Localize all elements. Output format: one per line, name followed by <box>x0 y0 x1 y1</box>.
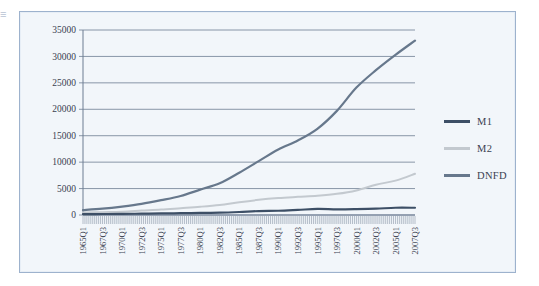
x-tick-label: 2007Q3 <box>410 227 420 254</box>
x-tick-label: 1972Q3 <box>137 227 147 254</box>
legend-item-dnfd[interactable]: DNFD <box>444 162 514 189</box>
x-tick-label: 1992Q3 <box>293 227 303 254</box>
chart-screenshot: ≡ 05000100001500020000250003000035000196… <box>0 0 539 286</box>
y-tick-label: 25000 <box>52 78 76 88</box>
y-tick-label: 10000 <box>52 157 76 167</box>
x-tick-label: 1995Q1 <box>313 227 323 254</box>
chart-legend: M1 M2 DNFD <box>444 108 514 189</box>
x-tick-label: 1975Q1 <box>156 227 166 254</box>
series-line-dnfd <box>83 41 415 211</box>
x-tick-label: 1987Q3 <box>254 227 264 254</box>
x-tick-label: 1980Q1 <box>195 227 205 254</box>
x-tick-label: 2000Q1 <box>352 227 362 254</box>
legend-swatch-dnfd <box>444 174 470 177</box>
y-tick-label: 30000 <box>52 52 76 62</box>
y-tick-label: 5000 <box>57 184 76 194</box>
legend-label-m2: M2 <box>477 143 492 154</box>
x-tick-label: 1982Q3 <box>215 227 225 254</box>
chart-figure-frame: 050001000015000200002500030000350001965Q… <box>19 11 516 273</box>
y-tick-label: 15000 <box>52 131 76 141</box>
x-tick-label: 1997Q3 <box>332 227 342 254</box>
legend-swatch-m2 <box>444 147 470 150</box>
legend-label-m1: M1 <box>477 116 492 127</box>
x-tick-label: 1965Q1 <box>78 227 88 254</box>
x-tick-label: 1985Q1 <box>234 227 244 254</box>
x-tick-label: 1977Q3 <box>176 227 186 254</box>
x-tick-label: 2002Q3 <box>371 227 381 254</box>
legend-label-dnfd: DNFD <box>477 170 507 181</box>
line-chart-plot: 050001000015000200002500030000350001965Q… <box>20 12 517 274</box>
legend-item-m2[interactable]: M2 <box>444 135 514 162</box>
y-tick-label: 0 <box>71 210 76 220</box>
edge-glyph: ≡ <box>0 8 8 20</box>
legend-item-m1[interactable]: M1 <box>444 108 514 135</box>
x-tick-label: 2005Q1 <box>391 227 401 254</box>
series-line-m2 <box>83 174 415 213</box>
x-tick-label: 1990Q1 <box>273 227 283 254</box>
y-tick-label: 20000 <box>52 104 76 114</box>
legend-swatch-m1 <box>444 120 470 123</box>
x-tick-label: 1970Q1 <box>117 227 127 254</box>
x-tick-label: 1967Q3 <box>98 227 108 254</box>
y-tick-label: 35000 <box>52 25 76 35</box>
